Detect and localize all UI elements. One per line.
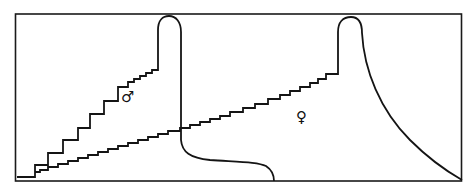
female-symbol-label: ♀ (296, 110, 307, 125)
diagram-figure: ♂ ♀ (0, 0, 476, 189)
male-symbol-label: ♂ (121, 90, 134, 105)
female-curve (35, 17, 462, 180)
diagram-canvas (0, 0, 476, 189)
diagram-frame (16, 14, 462, 181)
male-curve (17, 16, 274, 181)
